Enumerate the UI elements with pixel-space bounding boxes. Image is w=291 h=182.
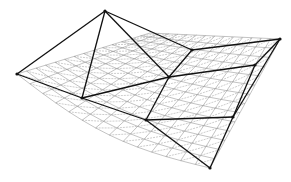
vertex-d	[144, 118, 147, 121]
vertex-b	[208, 166, 211, 169]
coarse-edge	[210, 117, 233, 168]
coarse-edge	[146, 117, 233, 120]
coarse-edge	[17, 11, 105, 74]
vertex-r2	[253, 63, 256, 66]
coarse-edge	[105, 11, 192, 50]
coarse-edge	[146, 77, 169, 120]
mesh-figure	[0, 0, 291, 182]
coarse-edge	[82, 98, 146, 120]
vertex-u	[190, 48, 193, 51]
coarse-edge	[146, 120, 210, 168]
vertex-c	[167, 75, 170, 78]
vertex-l	[15, 72, 18, 75]
vertex-t	[103, 9, 106, 12]
coarse-control-mesh	[17, 11, 280, 168]
coarse-edge	[255, 39, 280, 65]
vertex-r	[278, 37, 281, 40]
mesh-diagram	[0, 0, 291, 182]
vertex-r3	[231, 115, 234, 118]
vertex-a	[80, 96, 83, 99]
coarse-edge	[82, 77, 169, 98]
coarse-edge	[233, 39, 280, 117]
